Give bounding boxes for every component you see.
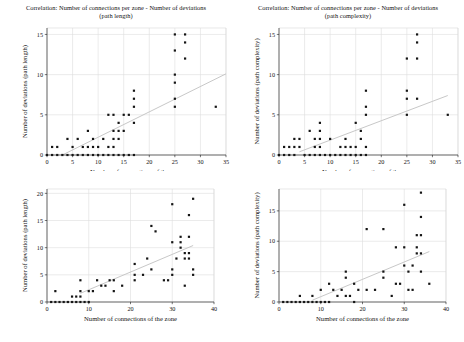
svg-text:5: 5 xyxy=(40,111,43,118)
svg-text:20: 20 xyxy=(146,158,152,165)
svg-text:10: 10 xyxy=(269,237,275,244)
svg-text:0: 0 xyxy=(40,298,43,305)
chart-panel-bottom-left: 01020304005101520Number of connections o… xyxy=(0,171,232,342)
svg-text:25: 25 xyxy=(172,158,178,165)
svg-text:10: 10 xyxy=(269,71,275,78)
svg-text:15: 15 xyxy=(269,207,275,214)
svg-text:10: 10 xyxy=(318,305,324,312)
svg-text:30: 30 xyxy=(197,158,203,165)
svg-text:15: 15 xyxy=(353,158,359,165)
svg-text:15: 15 xyxy=(121,158,127,165)
svg-text:35: 35 xyxy=(455,158,461,165)
svg-text:Number of deviations (path com: Number of deviations (path complexity) xyxy=(253,192,261,298)
svg-text:5: 5 xyxy=(303,158,306,165)
svg-text:0: 0 xyxy=(45,158,48,165)
svg-text:Number of deviations (path com: Number of deviations (path complexity) xyxy=(253,38,261,144)
svg-text:Number of connections of the z: Number of connections of the zone xyxy=(316,315,409,322)
scatter-plot-top-right: 05101520253035051015Number of connection… xyxy=(232,0,464,171)
svg-text:0: 0 xyxy=(272,151,275,158)
svg-text:20: 20 xyxy=(378,158,384,165)
scatter-plot-bottom-left: 01020304005101520Number of connections o… xyxy=(0,171,232,342)
svg-text:15: 15 xyxy=(269,31,275,38)
svg-text:15: 15 xyxy=(37,31,43,38)
svg-text:5: 5 xyxy=(272,111,275,118)
svg-text:35: 35 xyxy=(223,158,229,165)
svg-text:Number of deviations (path len: Number of deviations (path length) xyxy=(21,199,29,292)
svg-text:5: 5 xyxy=(71,158,74,165)
svg-text:15: 15 xyxy=(37,217,43,224)
svg-text:0: 0 xyxy=(277,305,280,312)
svg-text:40: 40 xyxy=(211,305,217,312)
svg-text:5: 5 xyxy=(40,271,43,278)
svg-text:0: 0 xyxy=(40,151,43,158)
svg-text:20: 20 xyxy=(127,305,133,312)
svg-text:30: 30 xyxy=(401,305,407,312)
chart-panel-top-right: Correlation: Number of connections per z… xyxy=(232,0,464,171)
chart-panel-top-left: Correlation: Number of connections per z… xyxy=(0,0,232,171)
chart-panel-bottom-right: 010203040051015Number of connections of … xyxy=(232,171,464,342)
svg-text:20: 20 xyxy=(37,190,43,197)
svg-text:10: 10 xyxy=(327,158,333,165)
svg-text:Number of connections of the z: Number of connections of the zone xyxy=(84,315,177,322)
svg-text:Number of deviations (path len: Number of deviations (path length) xyxy=(21,45,29,138)
svg-text:10: 10 xyxy=(86,305,92,312)
svg-text:25: 25 xyxy=(404,158,410,165)
svg-text:10: 10 xyxy=(95,158,101,165)
svg-text:5: 5 xyxy=(272,268,275,275)
scatter-plot-bottom-right: 010203040051015Number of connections of … xyxy=(232,171,464,342)
svg-text:10: 10 xyxy=(37,71,43,78)
figure-container: Correlation: Number of connections per z… xyxy=(0,0,464,342)
svg-text:30: 30 xyxy=(169,305,175,312)
svg-text:40: 40 xyxy=(443,305,449,312)
svg-text:20: 20 xyxy=(359,305,365,312)
scatter-plot-top-left: 05101520253035051015Number of connection… xyxy=(0,0,232,171)
svg-text:0: 0 xyxy=(45,305,48,312)
svg-text:0: 0 xyxy=(277,158,280,165)
svg-text:30: 30 xyxy=(429,158,435,165)
svg-text:10: 10 xyxy=(37,244,43,251)
svg-text:0: 0 xyxy=(272,298,275,305)
